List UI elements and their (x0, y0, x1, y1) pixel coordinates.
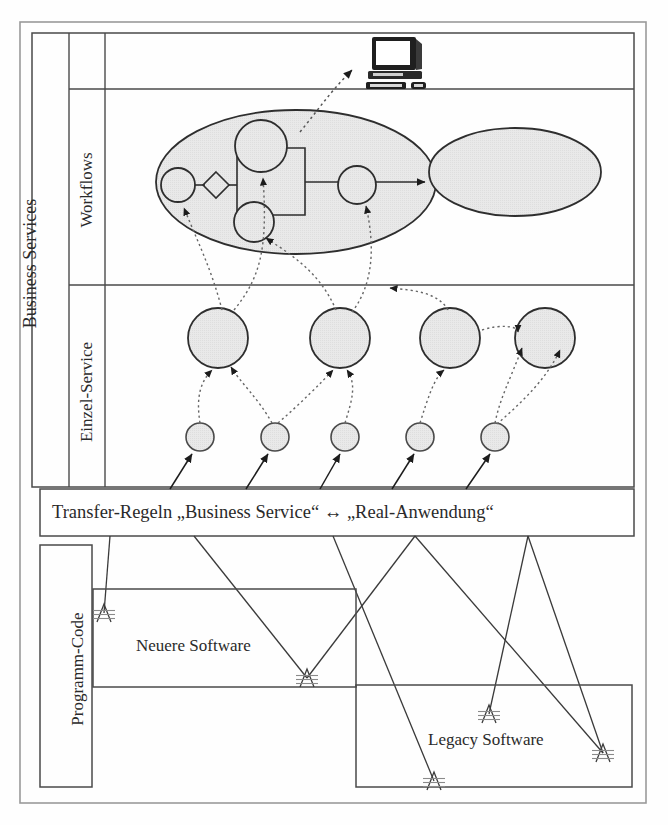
service-nodes-large (188, 308, 575, 368)
rules-to-service-arrows (170, 454, 490, 489)
service-small-4 (406, 423, 434, 451)
transfer-rule-text: Transfer-Regeln „Business Service“ ↔ „Re… (52, 502, 494, 523)
einzel-service-large-1 (188, 308, 248, 368)
service-small-3 (331, 423, 359, 451)
workflow-start-node (161, 168, 195, 202)
service-small-5 (481, 423, 509, 451)
einzel-service-large-4 (515, 308, 575, 368)
service-composition-links (199, 326, 561, 424)
diagram-canvas: Business Services Workflows Einzel-Servi… (0, 0, 668, 825)
band-label-programm-code: Programm-Code (68, 581, 88, 757)
desktop-computer-icon (366, 37, 426, 89)
service-nodes-small (186, 423, 509, 451)
workflow-cluster (156, 110, 601, 254)
target-application-ellipse (429, 128, 601, 216)
architecture-diagram (0, 0, 668, 825)
legacy-software-label: Legacy Software (428, 730, 544, 750)
workflow-task-node-lower (234, 202, 274, 242)
workflow-task-node-upper (235, 120, 287, 172)
business-services-band (32, 33, 634, 487)
neuere-software-label: Neuere Software (136, 636, 251, 656)
einzel-service-large-2 (310, 308, 370, 368)
band-label-einzel-service: Einzel-Service (77, 322, 97, 462)
einzel-service-large-3 (420, 308, 480, 368)
band-label-business-services: Business Services (20, 174, 41, 354)
service-small-1 (186, 423, 214, 451)
service-small-2 (261, 423, 289, 451)
workflow-end-node (338, 166, 376, 204)
ladder-code-icons (93, 604, 614, 790)
band-label-workflows: Workflows (77, 125, 97, 255)
